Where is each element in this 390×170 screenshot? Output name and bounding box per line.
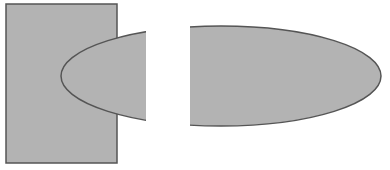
gap-strip xyxy=(146,0,190,170)
diagram-canvas xyxy=(0,0,390,170)
ellipse-shape xyxy=(61,26,381,126)
